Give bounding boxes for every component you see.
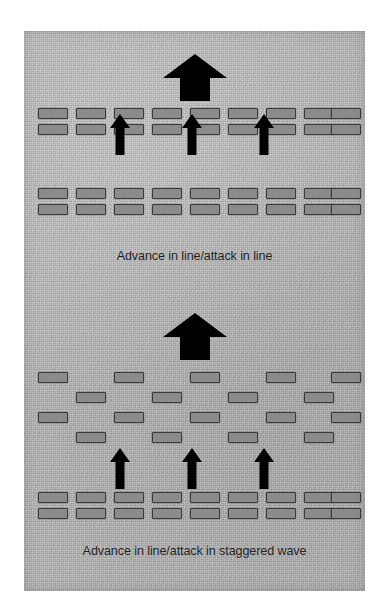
unit-block	[152, 508, 182, 519]
unit-block	[76, 188, 106, 199]
unit-block	[190, 412, 220, 423]
unit-block	[114, 508, 144, 519]
unit-block	[38, 204, 68, 215]
unit-block	[76, 392, 106, 403]
unit-block	[76, 492, 106, 503]
unit-block	[304, 188, 334, 199]
attack-arrow-icon	[254, 114, 274, 155]
unit-block	[228, 392, 258, 403]
unit-block	[304, 204, 334, 215]
unit-block	[331, 108, 361, 119]
unit-block	[152, 108, 182, 119]
unit-block	[114, 188, 144, 199]
unit-block	[228, 432, 258, 443]
unit-block	[228, 508, 258, 519]
unit-block	[152, 204, 182, 215]
unit-block	[114, 492, 144, 503]
unit-block	[76, 124, 106, 135]
unit-block	[152, 492, 182, 503]
unit-block	[190, 492, 220, 503]
unit-block	[331, 204, 361, 215]
unit-block	[266, 204, 296, 215]
unit-block	[304, 108, 334, 119]
advance-arrow-icon	[163, 313, 227, 360]
unit-block	[38, 508, 68, 519]
unit-block	[38, 372, 68, 383]
unit-block	[304, 492, 334, 503]
figure-page: Advance in line/attack in lineAdvance in…	[0, 0, 388, 612]
attack-arrow-icon	[110, 114, 130, 155]
unit-block	[38, 412, 68, 423]
unit-block	[190, 508, 220, 519]
unit-block	[76, 204, 106, 215]
unit-block	[266, 508, 296, 519]
unit-block	[114, 412, 144, 423]
unit-block	[266, 188, 296, 199]
unit-block	[76, 108, 106, 119]
attack-arrow-icon	[182, 448, 202, 489]
diagram-caption: Advance in line/attack in staggered wave	[36, 543, 353, 558]
unit-block	[38, 108, 68, 119]
unit-block	[331, 412, 361, 423]
unit-block	[190, 204, 220, 215]
unit-block	[38, 492, 68, 503]
unit-block	[266, 372, 296, 383]
unit-block	[152, 188, 182, 199]
diagram-plate: Advance in line/attack in lineAdvance in…	[24, 31, 365, 591]
unit-block	[304, 124, 334, 135]
attack-arrow-icon	[110, 448, 130, 489]
unit-block	[38, 188, 68, 199]
unit-block	[152, 392, 182, 403]
unit-block	[76, 508, 106, 519]
unit-block	[190, 188, 220, 199]
unit-block	[190, 372, 220, 383]
unit-block	[266, 492, 296, 503]
diagram-caption: Advance in line/attack in line	[36, 248, 353, 263]
unit-block	[331, 124, 361, 135]
unit-block	[331, 508, 361, 519]
unit-block	[114, 204, 144, 215]
unit-block	[76, 432, 106, 443]
unit-block	[152, 432, 182, 443]
attack-arrow-icon	[182, 114, 202, 155]
unit-block	[304, 432, 334, 443]
unit-block	[331, 188, 361, 199]
advance-arrow-icon	[163, 54, 227, 101]
unit-block	[152, 124, 182, 135]
unit-block	[304, 508, 334, 519]
attack-arrow-icon	[254, 448, 274, 489]
unit-block	[228, 188, 258, 199]
unit-block	[331, 492, 361, 503]
unit-block	[304, 392, 334, 403]
unit-block	[266, 412, 296, 423]
unit-block	[228, 492, 258, 503]
unit-block	[331, 372, 361, 383]
unit-block	[114, 372, 144, 383]
unit-block	[38, 124, 68, 135]
unit-block	[228, 204, 258, 215]
